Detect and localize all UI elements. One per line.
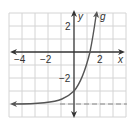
graph: −4 −2 2 x 2 −2 y g	[0, 0, 132, 122]
y-axis-label: y	[77, 11, 84, 22]
x-tick-minus2: −2	[40, 54, 52, 65]
y-tick-2: 2	[65, 21, 71, 32]
x-axis	[10, 49, 125, 55]
y-tick-minus2: −2	[59, 73, 71, 84]
x-tick-minus4: −4	[14, 54, 26, 65]
x-axis-label: x	[117, 54, 124, 65]
x-tick-2: 2	[97, 54, 103, 65]
curve-g-label: g	[100, 11, 106, 22]
